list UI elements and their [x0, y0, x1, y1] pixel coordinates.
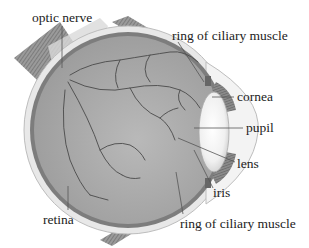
label-pupil: pupil — [246, 120, 274, 135]
label-iris: iris — [213, 185, 230, 200]
label-lens: lens — [237, 156, 259, 171]
eye-diagram: optic nerve ring of ciliary muscle corne… — [0, 0, 309, 248]
ciliary-muscle-top — [205, 76, 211, 86]
label-ciliary-bottom: ring of ciliary muscle — [180, 216, 296, 231]
label-retina: retina — [43, 212, 74, 227]
label-cornea: cornea — [237, 89, 273, 104]
lens-shape — [199, 92, 229, 172]
label-optic-nerve: optic nerve — [32, 10, 92, 25]
label-ciliary-top: ring of ciliary muscle — [172, 28, 288, 43]
